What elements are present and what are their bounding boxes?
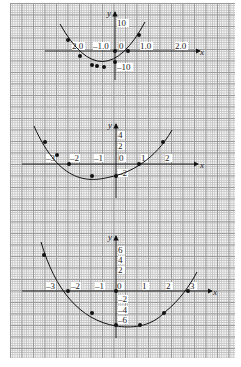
graph3-tick-xm3: –3 [45,281,56,291]
graph-1: y x 10 –10 2.0 –1.0 0 1.0 2.0 [45,8,204,80]
graph3-y-label: y [107,232,112,242]
graph-3: y x 6 4 2 –2 –4 –6 –3 –2 –1 0 1 2 3 [22,232,217,338]
graph3-tick-y6: 6 [118,245,123,255]
graph2-tick-y2: 2 [118,141,123,151]
graph2-tick-xm1: –1 [93,153,103,163]
graph1-y-label: y [106,8,111,18]
graph-2: y x 4 2 –2 –3 –2 –1 0 1 2 [22,120,204,198]
graph1-tick-x0: 0 [119,41,124,51]
graph3-tick-y4: 4 [118,255,123,265]
graph3-tick-x2: 2 [166,281,171,291]
figure-svg: y x 10 –10 2.0 –1.0 0 1.0 2.0 [0,0,241,367]
graph3-tick-x0: 0 [117,281,122,291]
graph1-tick-x1: 1.0 [140,41,152,51]
graph1-tick-ym10: –10 [116,62,131,72]
graph1-tick-y10: 10 [117,18,127,28]
graph1-x-label: x [199,47,204,57]
graph2-x-label: x [199,160,204,170]
graph2-tick-x0: 0 [119,153,124,163]
graph2-y-label: y [107,120,112,130]
graph2-tick-xm2: –2 [69,153,79,163]
graph3-tick-x1: 1 [142,281,147,291]
graph3-tick-y2: 2 [118,265,123,275]
graph3-tick-ym2: –2 [117,294,127,304]
graph2-tick-ym2: –2 [117,168,127,178]
graph1-tick-xm1: –1.0 [92,41,109,51]
graph3-tick-ym4: –4 [117,305,128,315]
graph3-tick-ym6: –6 [117,315,128,325]
graph2-tick-x2: 2 [165,153,170,163]
graph3-tick-xm1: –1 [94,281,104,291]
graph1-tick-x2: 2.0 [175,41,187,51]
graph3-tick-xm2: –2 [70,281,80,291]
graph2-tick-y4: 4 [118,130,123,140]
graph3-x-label: x [212,287,217,297]
